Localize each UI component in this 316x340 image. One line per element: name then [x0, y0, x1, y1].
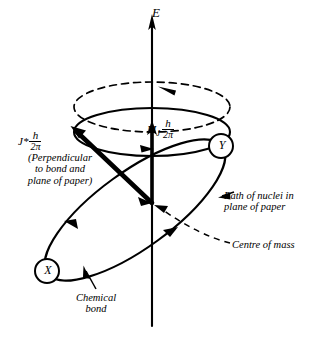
projection-vector-label: MJh2π: [147, 118, 174, 141]
projection-subscript: J: [156, 128, 160, 138]
projection-symbol: M: [147, 123, 156, 135]
precession-direction-arrowhead: [158, 87, 176, 96]
figure-canvas: E J*h2π (Perpendicular to bond and plane…: [0, 0, 316, 340]
nucleus-y-letter: Y: [214, 138, 230, 153]
centre-of-mass-leader: [160, 208, 230, 243]
h-over-2pi-fraction: h2π: [162, 118, 174, 141]
perpendicular-note-line-2: to bond and: [4, 163, 116, 174]
chemical-bond-line-1: Chemical: [63, 292, 129, 303]
h-over-2pi-fraction: h2π: [29, 130, 41, 153]
chemical-bond-leader-arrowhead: [83, 266, 90, 280]
perpendicular-note-line-3: plane of paper): [4, 175, 116, 186]
perpendicular-note-line-1: (Perpendicular: [4, 152, 116, 163]
chemical-bond-leader: [86, 271, 96, 289]
path-of-nuclei-line-2: plane of paper: [224, 201, 294, 212]
path-of-nuclei-line-1: Path of nuclei in: [224, 190, 294, 201]
perpendicular-note: (Perpendicular to bond and plane of pape…: [4, 152, 116, 186]
angular-momentum-vector-label: J*h2π: [18, 130, 41, 153]
chemical-bond-label: Chemical bond: [63, 292, 129, 315]
angular-momentum-symbol: J*: [18, 135, 28, 147]
centre-of-mass-label: Centre of mass: [232, 239, 295, 250]
fraction-denominator: 2π: [162, 130, 174, 141]
nucleus-x-letter: X: [40, 263, 56, 278]
chemical-bond-line-2: bond: [63, 303, 129, 314]
energy-axis-label: E: [152, 6, 160, 20]
fraction-denominator: 2π: [29, 142, 41, 153]
path-of-nuclei-label: Path of nuclei in plane of paper: [224, 190, 294, 213]
